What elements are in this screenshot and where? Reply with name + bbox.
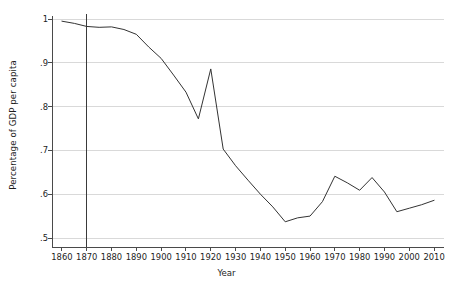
x-tick-label: 1910 [175,252,196,262]
y-tick-label: .8 [22,102,48,112]
x-tick-label: 1980 [349,252,370,262]
x-tick-label: 2000 [399,252,420,262]
y-tick-label: .5 [22,233,48,243]
x-tick-label: 1870 [76,252,97,262]
x-tick-label: 1930 [225,252,246,262]
y-tick-label: .7 [22,145,48,155]
axis-lines [52,16,444,247]
x-axis-ticks [62,247,434,251]
x-axis-title: Year [0,268,453,278]
y-axis-title: Percentage of GDP per capita [0,0,26,250]
x-tick-label: 1970 [324,252,345,262]
x-tick-label: 1950 [275,252,296,262]
y-tick-label: 1 [22,14,48,24]
x-tick-label: 1900 [150,252,171,262]
y-tick-label: .9 [22,58,48,68]
x-tick-label: 2010 [423,252,444,262]
plot-area [0,0,453,289]
y-tick-label: .6 [22,189,48,199]
data-series-line [62,21,434,222]
x-tick-label: 1940 [250,252,271,262]
x-tick-label: 1860 [51,252,72,262]
y-axis-title-text: Percentage of GDP per capita [8,60,18,190]
x-tick-label: 1960 [299,252,320,262]
y-axis-ticks [48,19,52,238]
gridlines [52,19,444,238]
x-tick-label: 1990 [374,252,395,262]
x-tick-label: 1890 [126,252,147,262]
x-tick-label: 1880 [101,252,122,262]
chart-container: Percentage of GDP per capita Year .5.6.7… [0,0,453,289]
x-tick-label: 1920 [200,252,221,262]
